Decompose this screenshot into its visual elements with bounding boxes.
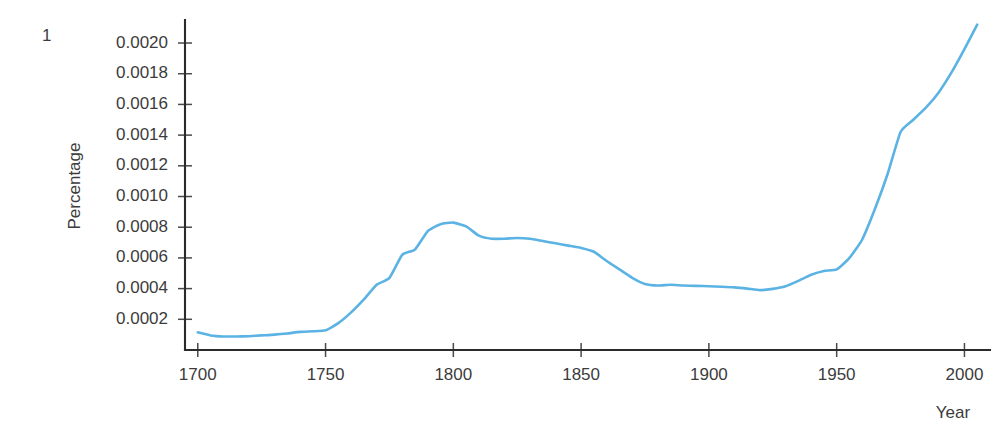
x-tick-label: 1900 — [690, 365, 728, 384]
y-tick-label: 0.0004 — [116, 278, 168, 297]
y-tick-label: 0.0020 — [116, 33, 168, 52]
x-tick-label: 2000 — [946, 365, 984, 384]
y-tick-label: 0.0010 — [116, 186, 168, 205]
y-tick-label: 0.0002 — [116, 309, 168, 328]
x-tick-label: 1700 — [179, 365, 217, 384]
y-tick-label: 0.0014 — [116, 125, 168, 144]
x-tick-label: 1950 — [818, 365, 856, 384]
x-axis-title: Year — [936, 403, 971, 422]
x-tick-label: 1800 — [434, 365, 472, 384]
data-series-line — [198, 25, 977, 337]
y-tick-label: 0.0008 — [116, 217, 168, 236]
y-tick-label: 0.0006 — [116, 247, 168, 266]
y-tick-label: 0.0018 — [116, 63, 168, 82]
y-tick-label: 0.0016 — [116, 94, 168, 113]
x-axis-tick-labels: 1700175018001850190019502000 — [179, 365, 983, 384]
line-chart: 0.00020.00040.00060.00080.00100.00120.00… — [0, 0, 1008, 439]
y-axis-title: Percentage — [65, 143, 84, 230]
y-tick-label: 0.0012 — [116, 155, 168, 174]
y-axis-tick-labels: 0.00020.00040.00060.00080.00100.00120.00… — [116, 33, 168, 328]
x-tick-label: 1850 — [562, 365, 600, 384]
figure-container: 1 0.00020.00040.00060.00080.00100.00120.… — [0, 0, 1008, 439]
x-tick-label: 1750 — [307, 365, 345, 384]
